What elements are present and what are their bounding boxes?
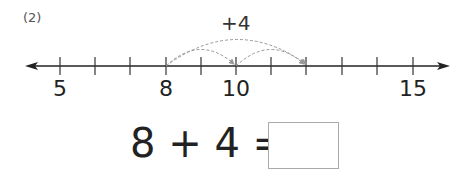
equation: 8 + 4 = (130, 118, 286, 168)
tick-label-10: 10 (222, 76, 250, 101)
jump-arc-10-to-12 (236, 49, 304, 66)
tick-label-5: 5 (53, 76, 67, 101)
answer-box[interactable] (268, 122, 339, 169)
jump-arc-8-to-10 (166, 49, 234, 66)
tick-label-15: 15 (399, 76, 427, 101)
tick-label-8: 8 (159, 76, 173, 101)
